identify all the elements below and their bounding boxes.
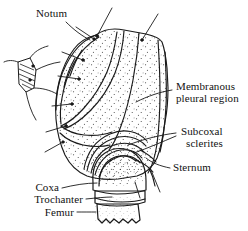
label-femur: Femur [0,206,74,219]
label-subcoxal-line2: sclerites [186,137,223,150]
label-membranous-line2: pleural region [176,92,239,105]
leader-notum [66,22,90,40]
wing-base-group [4,46,60,120]
leader-coxa [62,183,97,188]
figure-container: Notum Membranous pleural region Subcoxal… [0,0,248,231]
label-membranous-line1: Membranous [176,80,235,93]
label-subcoxal-line1: Subcoxal [181,125,223,138]
label-notum: Notum [36,7,67,20]
label-sternum: Sternum [173,161,211,174]
label-coxa: Coxa [0,181,59,194]
label-trochanter: Trochanter [0,193,83,206]
